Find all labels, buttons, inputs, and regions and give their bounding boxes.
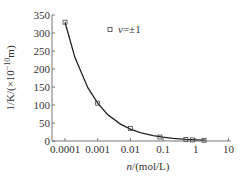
y-axis: 050100150200250300350 <box>34 9 56 147</box>
y-tick-label: 100 <box>34 99 51 111</box>
x-tick-label: 0.1 <box>156 143 170 155</box>
fit-curve <box>65 22 206 140</box>
y-axis-label: 1/K/(×10−10m) <box>3 45 17 111</box>
y-tick-label: 150 <box>34 81 51 93</box>
y-tick-label: 300 <box>34 27 51 39</box>
x-axis-label: n/(mol/L) <box>127 160 170 173</box>
x-tick-label: 0.0001 <box>50 143 80 155</box>
legend: ν=±1 <box>108 23 141 35</box>
x-tick-label: 0.001 <box>85 143 110 155</box>
y-tick-label: 50 <box>39 117 51 129</box>
y-tick-label: 350 <box>34 9 51 21</box>
x-tick-label: 10 <box>223 143 235 155</box>
legend-marker-square-icon <box>108 28 112 32</box>
legend-label: ν=±1 <box>118 23 141 35</box>
plot-area <box>63 20 206 142</box>
y-tick-label: 250 <box>34 45 51 57</box>
chart: 050100150200250300350 0.00010.0010.010.1… <box>0 0 246 181</box>
x-tick-label: 0.01 <box>121 143 140 155</box>
x-axis: 0.00010.0010.010.1110 <box>50 138 235 155</box>
y-tick-label: 200 <box>34 63 51 75</box>
x-tick-label: 1 <box>193 143 199 155</box>
